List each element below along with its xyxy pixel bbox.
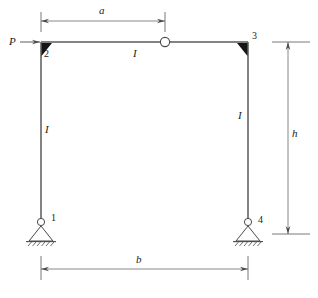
stiffness-label-beam: I <box>133 48 137 59</box>
gusset-node-3 <box>237 43 248 56</box>
dimension-label-b: b <box>136 254 142 265</box>
dimension-b <box>41 256 248 280</box>
ground-hatch-node-1 <box>28 242 54 246</box>
rigid-joint-gussets <box>42 43 248 56</box>
node-label-4: 4 <box>258 215 263 225</box>
node-label-2: 2 <box>44 49 49 59</box>
pin-triangle-node-4 <box>236 226 260 241</box>
dimension-h <box>272 42 310 234</box>
dimension-label-a: a <box>99 5 105 16</box>
pin-triangle-node-1 <box>29 226 53 241</box>
frame-drawing <box>0 0 318 298</box>
hinge-circle <box>160 37 169 46</box>
internal-hinge <box>160 37 169 46</box>
load-label-P: P <box>9 36 16 47</box>
stiffness-label-right-column: I <box>238 110 242 121</box>
structural-frame-figure: P a b h 2 3 1 4 I I I <box>0 0 318 298</box>
node-label-3: 3 <box>252 31 257 41</box>
ground-hatch-node-4 <box>235 242 261 246</box>
node-label-1: 1 <box>51 213 56 223</box>
pin-circle-node-1 <box>37 218 44 225</box>
frame-members <box>41 42 248 222</box>
pin-circle-node-4 <box>244 218 251 225</box>
dimension-label-h: h <box>292 128 298 139</box>
stiffness-label-left-column: I <box>45 124 49 135</box>
